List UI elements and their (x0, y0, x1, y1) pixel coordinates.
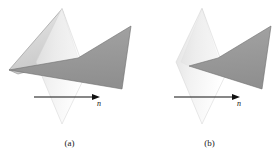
panel-a-drawing: n (0, 0, 139, 152)
panel-b-caption: (b) (140, 139, 279, 148)
panel-b-drawing: n (140, 0, 279, 152)
normal-vector-label: n (237, 99, 241, 108)
panel-b: n (b) (140, 0, 279, 152)
panel-a: n (a) (0, 0, 139, 152)
figure-container: n (a) (0, 0, 279, 152)
panel-a-caption: (a) (0, 139, 139, 148)
normal-vector-label: n (97, 99, 101, 108)
